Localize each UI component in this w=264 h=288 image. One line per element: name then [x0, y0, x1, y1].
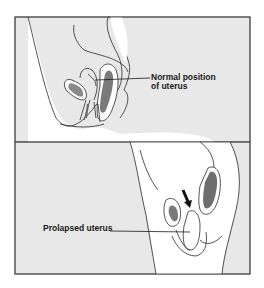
uterus-prolapse-diagram: Normal position of uterus Prolapsed uter… [0, 0, 264, 288]
prolapsed-uterus-label: Prolapsed uterus [43, 224, 112, 233]
label-line-1: Prolapsed uterus [43, 224, 112, 233]
label-line-2: of uterus [151, 82, 216, 91]
bottom-panel [15, 142, 250, 274]
normal-position-label: Normal position of uterus [151, 73, 216, 91]
diagram-canvas [0, 0, 264, 288]
